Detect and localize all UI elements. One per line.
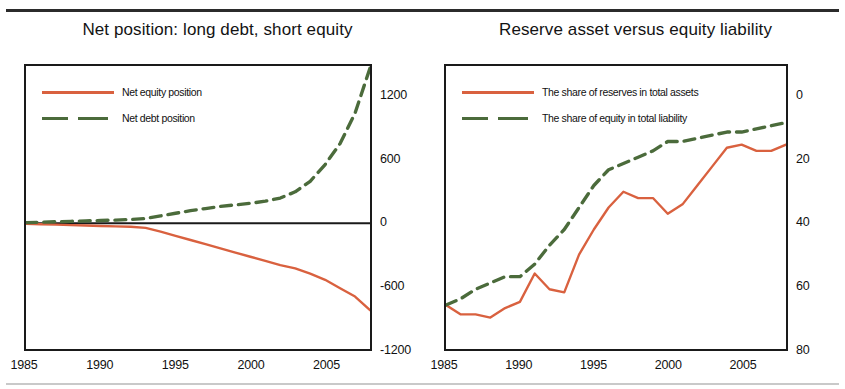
legend-item-net-equity: Net equity position (42, 86, 202, 98)
legend-swatch-dashed-icon (42, 112, 114, 124)
plot-lines-right (446, 66, 786, 349)
x-tick-label: 1990 (499, 358, 539, 372)
plot-lines-left (26, 66, 370, 349)
legend-label-net-debt: Net debt position (122, 112, 195, 124)
chart-title-left: Net position: long debt, short equity (0, 20, 429, 40)
y-tick-label: 1200 (380, 88, 407, 102)
legend-label-net-equity: Net equity position (122, 86, 202, 98)
x-tick-label: 1995 (155, 358, 195, 372)
y-tick-label: 40 (796, 215, 810, 229)
chart-title-right: Reserve asset versus equity liability (422, 20, 845, 40)
series-line-1 (26, 224, 370, 310)
x-tick-label: 1990 (80, 358, 120, 372)
legend-swatch-solid-icon (462, 86, 534, 98)
series-line-1 (446, 145, 786, 318)
legend-item-equity-share: The share of equity in total liability (462, 112, 687, 124)
x-tick-label: 2000 (648, 358, 688, 372)
legend-label-reserves-share: The share of reserves in total assets (542, 86, 698, 98)
x-tick-label: 1985 (4, 358, 44, 372)
legend-item-reserves-share: The share of reserves in total assets (462, 86, 698, 98)
legend-item-net-debt: Net debt position (42, 112, 195, 124)
y-tick-label: 60 (796, 279, 810, 293)
x-tick-label: 1985 (424, 358, 464, 372)
x-tick-label: 2005 (723, 358, 763, 372)
legend-swatch-solid-icon (42, 86, 114, 98)
y-tick-label: 600 (380, 152, 400, 166)
x-tick-label: 1995 (574, 358, 614, 372)
x-tick-label: 2000 (231, 358, 271, 372)
legend-label-equity-share: The share of equity in total liability (542, 112, 687, 124)
legend-swatch-dashed-icon (462, 112, 534, 124)
y-tick-label: 20 (796, 152, 810, 166)
y-tick-label: -600 (380, 279, 404, 293)
chart-panel-reserve-asset: Reserve asset versus equity liability Th… (422, 0, 845, 389)
y-tick-label: 80 (796, 343, 810, 357)
figure-sheet: Net position: long debt, short equity Ne… (0, 0, 845, 389)
y-tick-label: -1200 (380, 343, 411, 357)
chart-panel-net-position: Net position: long debt, short equity Ne… (0, 0, 423, 389)
plot-area-right: The share of reserves in total assets Th… (444, 64, 788, 351)
y-tick-label: 0 (380, 215, 387, 229)
series-line-2 (446, 123, 786, 305)
plot-area-left: Net equity position Net debt position (24, 64, 372, 351)
x-tick-label: 2005 (307, 358, 347, 372)
y-tick-label: 0 (796, 88, 803, 102)
